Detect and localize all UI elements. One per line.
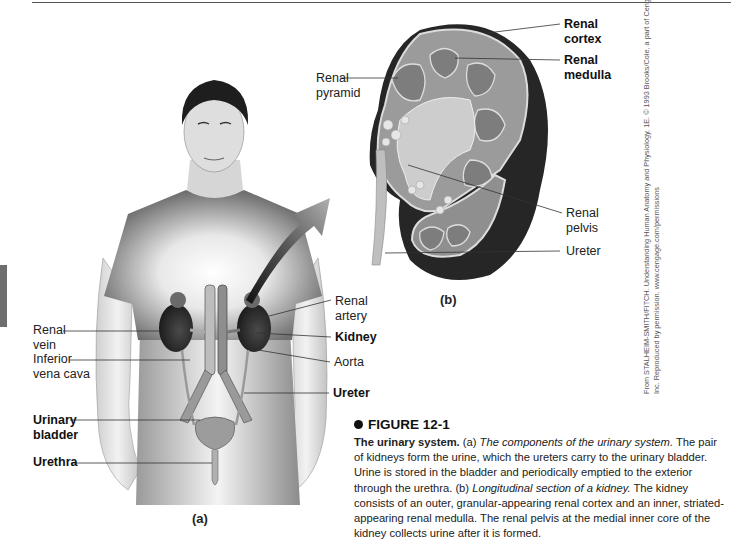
figure-title: FIGURE 12-1 xyxy=(354,417,729,432)
label-kidney: Kidney xyxy=(335,330,377,345)
caption-a-italic: The components of the urinary system. xyxy=(480,436,673,448)
label-renal-cortex: Renalcortex xyxy=(564,17,602,47)
caption-text: The urinary system. (a) The components o… xyxy=(354,435,729,541)
figure-caption: FIGURE 12-1 The urinary system. (a) The … xyxy=(354,417,729,541)
label-ureter-b: Ureter xyxy=(566,244,601,259)
label-urinary-bladder: Urinarybladder xyxy=(33,413,78,443)
label-urethra: Urethra xyxy=(33,455,77,470)
label-renal-pyramid: Renalpyramid xyxy=(316,71,360,101)
caption-b-italic: Longitudinal section of a kidney. xyxy=(472,482,630,494)
label-renal-vein: Renalvein xyxy=(33,323,66,353)
credit-line-2: Inc. Reproduced by permission. www.cenga… xyxy=(652,14,662,394)
person-figure xyxy=(96,80,330,505)
label-renal-artery: Renalartery xyxy=(335,294,368,324)
caption-title: The urinary system. xyxy=(354,436,460,448)
kidney-section xyxy=(370,24,548,280)
label-renal-pelvis: Renalpelvis xyxy=(566,206,599,236)
caption-a-marker: (a) xyxy=(463,436,477,448)
label-ureter-a: Ureter xyxy=(333,386,370,401)
credit-line-1: From STALHEIM-SMITH/FITCH. Understanding… xyxy=(642,14,652,394)
label-inferior-vena-cava: Inferiorvena cava xyxy=(33,352,90,382)
panel-a-label: (a) xyxy=(192,511,208,526)
label-aorta: Aorta xyxy=(334,355,364,370)
caption-b-marker: (b) xyxy=(455,482,469,494)
copyright-credit: From STALHEIM-SMITH/FITCH. Understanding… xyxy=(642,14,652,394)
figure-number: FIGURE 12-1 xyxy=(368,417,450,432)
label-renal-medulla: Renalmedulla xyxy=(564,53,611,83)
bullet-dot-icon xyxy=(354,420,363,429)
panel-b-label: (b) xyxy=(440,292,457,307)
